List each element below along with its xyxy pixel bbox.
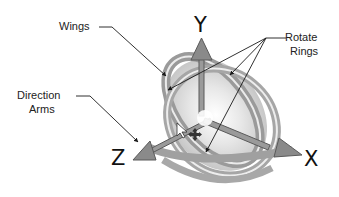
gizmo-center [197, 110, 213, 126]
wings-label: Wings [59, 20, 90, 33]
axis-label-x: X [304, 149, 318, 170]
axis-label-z: Z [111, 148, 125, 169]
rotate-rings-label-line1: Rotate [285, 31, 317, 44]
rotate-rings-label-line2: Rings [290, 45, 318, 58]
rotate-rings-leader-2 [230, 38, 266, 75]
direction-arms-label-line2: Arms [29, 103, 55, 116]
axis-label-y: Y [194, 15, 207, 36]
wings-leader [99, 27, 166, 76]
direction-arms-label-line1: Direction [17, 89, 60, 102]
direction-arms-leader [76, 96, 138, 142]
